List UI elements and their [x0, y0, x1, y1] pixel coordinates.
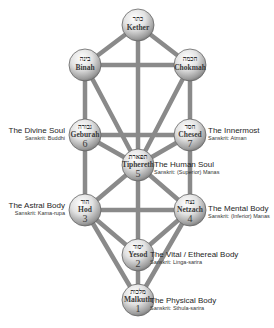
sphere-hod: הוד Hod 3: [69, 194, 101, 226]
sephirah-number: 4: [188, 213, 193, 224]
sephirah-number: 1: [136, 303, 141, 314]
sephirah-number: 7: [188, 138, 193, 149]
label-title: The Human Soul: [154, 160, 219, 169]
sphere-chokmah: חכמה Chokmah: [174, 49, 207, 81]
label-subtitle: Sanskrit: (Inferior) Manas: [208, 213, 270, 220]
label-vital-body: The Vital / Ethereal Body Sanskrit: Ling…: [150, 250, 238, 266]
label-title: The Vital / Ethereal Body: [150, 250, 238, 259]
label-subtitle: Sanskrit: Buddhi: [9, 135, 65, 142]
label-subtitle: Sanskrit: Sthula-sarira: [150, 305, 216, 312]
label-title: The Astral Body: [9, 201, 65, 210]
label-title: The Physical Body: [150, 296, 216, 305]
sphere-geburah: גבורה Geburah 6: [69, 119, 101, 151]
label-innermost: The Innermost Sanskrit: Atman: [208, 126, 260, 142]
label-mental-body: The Mental Body Sanskrit: (Inferior) Man…: [208, 204, 270, 220]
hebrew-label: בינה: [80, 55, 91, 63]
sephirah-name: Kether: [127, 23, 150, 32]
label-human-soul: The Human Soul Sanskrit: (Superior) Mana…: [154, 160, 219, 176]
label-title: The Mental Body: [208, 204, 270, 213]
hebrew-label: חכמה: [183, 55, 198, 63]
sephirah-number: 5: [136, 168, 141, 179]
label-title: The Innermost: [208, 126, 260, 135]
sephirah-name: Binah: [75, 63, 95, 72]
label-subtitle: Sanskrit: Kama-rupa: [9, 210, 65, 217]
sphere-chesed: חסד Chesed 7: [174, 119, 206, 151]
label-astral-body: The Astral Body Sanskrit: Kama-rupa: [9, 201, 65, 217]
label-title: The Divine Soul: [9, 126, 65, 135]
label-subtitle: Sanskrit: (Superior) Manas: [154, 169, 219, 176]
hebrew-label: כתר: [133, 15, 143, 23]
sephirah-name: Chokmah: [174, 63, 207, 72]
label-subtitle: Sanskrit: Linga-sarira: [150, 259, 238, 266]
label-physical-body: The Physical Body Sanskrit: Sthula-sarir…: [150, 296, 216, 312]
sephirah-number: 2: [136, 258, 141, 269]
sphere-binah: בינה Binah: [69, 49, 101, 81]
sphere-netzach: נצח Netzach 4: [174, 194, 206, 226]
tree-of-life-diagram: כתר Kether בינה Binah חכמה Chokmah גבורה…: [0, 0, 274, 328]
sephirah-number: 6: [83, 138, 88, 149]
label-divine-soul: The Divine Soul Sanskrit: Buddhi: [9, 126, 65, 142]
sephirah-number: 3: [83, 213, 88, 224]
sphere-tiphereth: תפארת Tiphereth 5: [122, 149, 155, 181]
label-subtitle: Sanskrit: Atman: [208, 135, 260, 142]
sphere-kether: כתר Kether: [122, 9, 154, 41]
